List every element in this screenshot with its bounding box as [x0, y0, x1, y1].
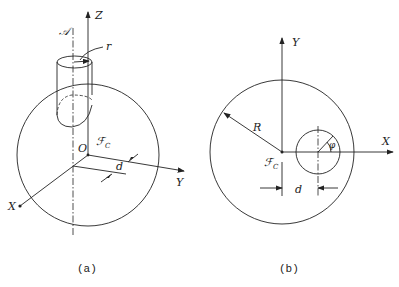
offset-d-label-a: d — [116, 160, 123, 173]
y-axis-label-b: Y — [292, 36, 301, 49]
caption-a: (a) — [77, 263, 97, 275]
origin-label: O — [78, 142, 87, 155]
diagram-canvas: Z 𝒜 r O ℱC d Y X (a) Y X R φ ℱC d (b) — [0, 0, 399, 287]
x-axis-label-a: X — [7, 200, 17, 213]
d-arrow-top — [128, 154, 138, 162]
caption-b: (b) — [279, 263, 299, 275]
x-axis-label-b: X — [381, 135, 391, 148]
cylinder — [57, 47, 103, 127]
figure-b: Y X R φ ℱC d (b) — [210, 36, 393, 275]
angle-phi-label: φ — [329, 140, 336, 150]
radius-r-label: r — [106, 40, 112, 53]
y-axis — [88, 155, 184, 171]
y-axis-label-a: Y — [176, 176, 185, 189]
x-axis — [20, 155, 88, 206]
frame-label-b: ℱC — [264, 156, 279, 171]
offset-d-label-b: d — [295, 183, 302, 196]
axis-a-label: 𝒜 — [59, 25, 73, 38]
z-axis-label: Z — [94, 9, 103, 22]
radius-big-label: R — [252, 121, 261, 134]
figure-a: Z 𝒜 r O ℱC d Y X (a) — [7, 9, 185, 275]
frame-label-a: ℱC — [96, 135, 111, 150]
